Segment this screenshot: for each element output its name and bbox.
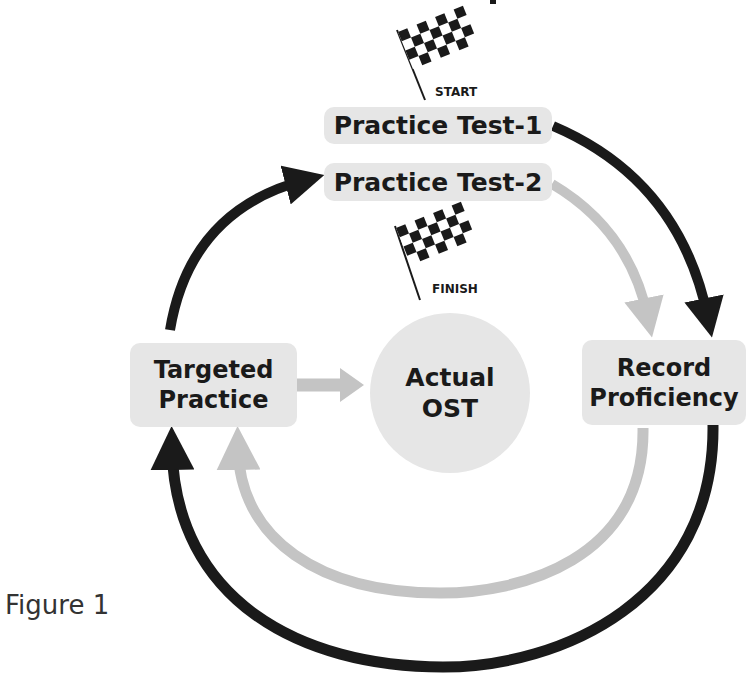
title-fragment [490, 0, 496, 4]
arrow-test1-to-record [553, 126, 708, 318]
figure-caption: Figure 1 [5, 590, 109, 620]
node-record-proficiency: Record Proficiency [582, 340, 746, 425]
node-practice-test-2: Practice Test-2 [324, 163, 552, 201]
node-practice-test-1: Practice Test-1 [324, 107, 552, 144]
arrow-test2-to-record [552, 184, 648, 318]
node-actual-ost: Actual OST [370, 313, 530, 473]
finish-label: FINISH [432, 282, 478, 296]
arrow-targeted-to-test2 [170, 180, 305, 330]
start-label: START [435, 85, 477, 99]
node-targeted-practice: Targeted Practice [130, 343, 297, 427]
